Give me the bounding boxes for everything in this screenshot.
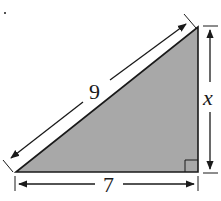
hyp-tick-bottom [3,160,13,172]
stray-dot [4,12,6,14]
hyp-tick-top [184,14,196,28]
base-label: 7 [103,172,114,197]
hypotenuse-label: 9 [89,79,100,104]
height-label: x [202,85,213,110]
triangle-shape [16,27,198,172]
right-triangle-diagram: 9 x 7 [0,0,221,201]
